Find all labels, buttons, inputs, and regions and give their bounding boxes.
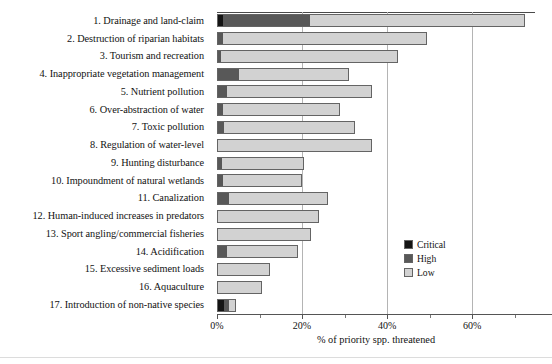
stacked-bar[interactable] bbox=[217, 281, 262, 294]
legend-item-high: High bbox=[404, 253, 446, 264]
bar-row[interactable] bbox=[217, 243, 535, 261]
bar-row[interactable] bbox=[217, 119, 535, 137]
bar-segment-low bbox=[229, 300, 236, 311]
category-axis-labels: 1. Drainage and land-claim 2. Destructio… bbox=[0, 12, 210, 314]
plot-area: 0%20%40%60% bbox=[217, 12, 535, 314]
legend-label: Low bbox=[417, 267, 435, 278]
category-label: 2. Destruction of riparian habitats bbox=[0, 30, 210, 48]
x-tick-label: 60% bbox=[463, 320, 481, 331]
x-tick-minor bbox=[345, 315, 346, 318]
bar-segment-low bbox=[218, 282, 262, 293]
bar-segment-low bbox=[222, 158, 304, 169]
bar-row[interactable] bbox=[217, 207, 535, 225]
x-tick-label: 20% bbox=[293, 320, 311, 331]
bar-segment-low bbox=[218, 264, 270, 275]
bar-segment-low bbox=[223, 33, 427, 44]
bar-row[interactable] bbox=[217, 154, 535, 172]
stacked-bar[interactable] bbox=[217, 68, 349, 81]
bar-segment-low bbox=[310, 15, 525, 26]
category-label: 4. Inappropriate vegetation management bbox=[0, 65, 210, 83]
bar-segment-high bbox=[218, 86, 227, 97]
bar-segment-low bbox=[227, 86, 373, 97]
stacked-bar-chart: 1. Drainage and land-claim 2. Destructio… bbox=[0, 0, 552, 364]
bar-row[interactable] bbox=[217, 190, 535, 208]
stacked-bar[interactable] bbox=[217, 299, 236, 312]
category-label: 11. Canalization bbox=[0, 190, 210, 208]
bar-segment-low bbox=[218, 140, 372, 151]
x-tick-minor bbox=[515, 315, 516, 318]
stacked-bar[interactable] bbox=[217, 139, 372, 152]
x-tick-label: 0% bbox=[210, 320, 223, 331]
stacked-bar[interactable] bbox=[217, 14, 525, 27]
stacked-bar[interactable] bbox=[217, 245, 298, 258]
x-tick-major bbox=[387, 315, 388, 319]
bar-segment-low bbox=[221, 51, 397, 62]
bar-series-container bbox=[217, 12, 535, 314]
stacked-bar[interactable] bbox=[217, 174, 302, 187]
stacked-bar[interactable] bbox=[217, 121, 355, 134]
bar-segment-low bbox=[224, 122, 356, 133]
x-tick-major bbox=[217, 315, 218, 319]
bar-row[interactable] bbox=[217, 101, 535, 119]
bar-row[interactable] bbox=[217, 65, 535, 83]
stacked-bar[interactable] bbox=[217, 263, 270, 276]
stacked-bar[interactable] bbox=[217, 192, 328, 205]
bar-row[interactable] bbox=[217, 172, 535, 190]
x-axis-line bbox=[217, 314, 552, 315]
bar-row[interactable] bbox=[217, 261, 535, 279]
bar-segment-low bbox=[239, 69, 349, 80]
bar-segment-high bbox=[218, 69, 239, 80]
x-tick-major bbox=[302, 315, 303, 319]
legend-item-critical: Critical bbox=[404, 239, 446, 250]
category-label: 17. Introduction of non-native species bbox=[0, 296, 210, 314]
footer-divider bbox=[0, 357, 552, 358]
bar-segment-low bbox=[227, 246, 298, 257]
x-tick-major bbox=[472, 315, 473, 319]
legend-label: Critical bbox=[417, 239, 446, 250]
bar-row[interactable] bbox=[217, 12, 535, 30]
category-label: 7. Toxic pollution bbox=[0, 119, 210, 137]
category-label: 3. Tourism and recreation bbox=[0, 48, 210, 66]
bar-row[interactable] bbox=[217, 296, 535, 314]
legend-swatch-critical bbox=[404, 240, 413, 249]
category-label: 8. Regulation of water-level bbox=[0, 136, 210, 154]
category-label: 5. Nutrient pollution bbox=[0, 83, 210, 101]
bar-segment-low bbox=[223, 175, 302, 186]
stacked-bar[interactable] bbox=[217, 85, 372, 98]
stacked-bar[interactable] bbox=[217, 210, 319, 223]
category-label: 13. Sport angling/commercial fisheries bbox=[0, 225, 210, 243]
stacked-bar[interactable] bbox=[217, 157, 304, 170]
x-tick-minor bbox=[430, 315, 431, 318]
category-label: 15. Excessive sediment loads bbox=[0, 261, 210, 279]
stacked-bar[interactable] bbox=[217, 103, 340, 116]
bar-segment-low bbox=[229, 193, 328, 204]
bar-segment-high bbox=[218, 246, 227, 257]
bar-segment-high bbox=[223, 15, 310, 26]
category-label: 16. Aquaculture bbox=[0, 278, 210, 296]
bar-segment-low bbox=[223, 104, 340, 115]
bar-segment-low bbox=[218, 211, 319, 222]
bar-segment-high bbox=[218, 193, 229, 204]
x-axis-title: % of priority spp. threatened bbox=[217, 334, 535, 345]
category-label: 9. Hunting disturbance bbox=[0, 154, 210, 172]
bar-row[interactable] bbox=[217, 136, 535, 154]
bar-row[interactable] bbox=[217, 30, 535, 48]
category-label: 10. Impoundment of natural wetlands bbox=[0, 172, 210, 190]
legend-swatch-high bbox=[404, 254, 413, 263]
legend-swatch-low bbox=[404, 268, 413, 277]
legend-label: High bbox=[417, 253, 436, 264]
x-tick-minor bbox=[260, 315, 261, 318]
bar-row[interactable] bbox=[217, 48, 535, 66]
x-tick-label: 40% bbox=[378, 320, 396, 331]
stacked-bar[interactable] bbox=[217, 50, 398, 63]
bar-row[interactable] bbox=[217, 278, 535, 296]
legend-item-low: Low bbox=[404, 267, 446, 278]
category-label: 14. Acidification bbox=[0, 243, 210, 261]
stacked-bar[interactable] bbox=[217, 32, 427, 45]
stacked-bar[interactable] bbox=[217, 228, 311, 241]
category-label: 12. Human-induced increases in predators bbox=[0, 207, 210, 225]
category-label: 6. Over-abstraction of water bbox=[0, 101, 210, 119]
bar-segment-low bbox=[218, 229, 311, 240]
bar-row[interactable] bbox=[217, 225, 535, 243]
bar-row[interactable] bbox=[217, 83, 535, 101]
